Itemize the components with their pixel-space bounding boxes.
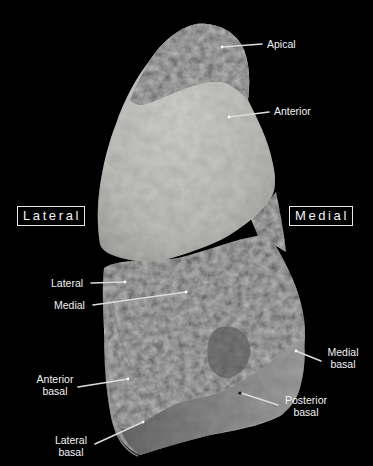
label-anterior-basal-line1: Anterior [32, 373, 78, 385]
leader-dot [185, 291, 188, 294]
orientation-label-lateral: Lateral [17, 206, 85, 226]
label-posterior-basal-line2: basal [281, 406, 331, 418]
label-anterior-basal: Anterior basal [32, 373, 78, 397]
label-lateral: Lateral [51, 277, 83, 289]
leader-dot [142, 421, 145, 424]
label-medial: Medial [54, 299, 85, 311]
leader-dot-posterior-basal [238, 391, 241, 394]
label-medial-basal: Medial basal [323, 346, 363, 370]
label-apical: Apical [267, 38, 296, 50]
label-anterior-basal-line2: basal [32, 385, 78, 397]
leader-dot [124, 281, 127, 284]
leader-dot [127, 378, 130, 381]
label-medial-basal-line1: Medial [323, 346, 363, 358]
label-lateral-basal-line1: Lateral [50, 434, 92, 446]
label-posterior-basal: Posterior basal [281, 394, 331, 418]
leader-lateral [91, 282, 125, 283]
leader-dot [295, 350, 298, 353]
leader-dot [228, 116, 231, 119]
label-lateral-basal: Lateral basal [50, 434, 92, 458]
label-medial-basal-line2: basal [323, 358, 363, 370]
label-lateral-basal-line2: basal [50, 446, 92, 458]
leader-dot [221, 46, 224, 49]
orientation-label-medial: Medial [289, 206, 353, 226]
label-posterior-basal-line1: Posterior [281, 394, 331, 406]
label-anterior: Anterior [274, 105, 311, 117]
